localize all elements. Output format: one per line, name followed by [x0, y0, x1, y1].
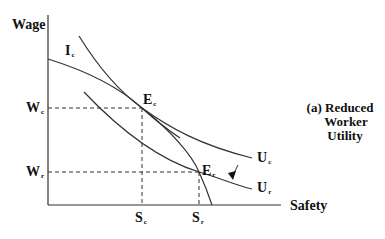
- er-label: Er: [202, 164, 215, 182]
- arrow-head-icon: [228, 171, 236, 180]
- wc-label: Wc: [26, 101, 44, 119]
- y-axis-label: Wage: [12, 18, 45, 32]
- uc-label: Uc: [257, 151, 271, 169]
- diagram-caption: (a) Reduced Worker Utility: [300, 101, 380, 143]
- ic-label: Ic: [65, 44, 75, 62]
- ec-label: Ec: [143, 93, 156, 111]
- caption-line-2: Worker: [300, 115, 380, 129]
- uc-curve: [142, 108, 252, 158]
- x-axis-label: Safety: [290, 199, 327, 213]
- wr-label: Wr: [26, 165, 44, 183]
- ur-curve: [84, 92, 252, 189]
- sc-label: Sc: [135, 211, 147, 229]
- caption-line-1: (a) Reduced: [300, 101, 380, 115]
- sr-label: Sr: [192, 211, 204, 229]
- caption-line-3: Utility: [300, 129, 380, 143]
- isoprofit-curve: [79, 36, 212, 205]
- ur-label: Ur: [257, 181, 271, 199]
- ic-curve: [48, 59, 180, 138]
